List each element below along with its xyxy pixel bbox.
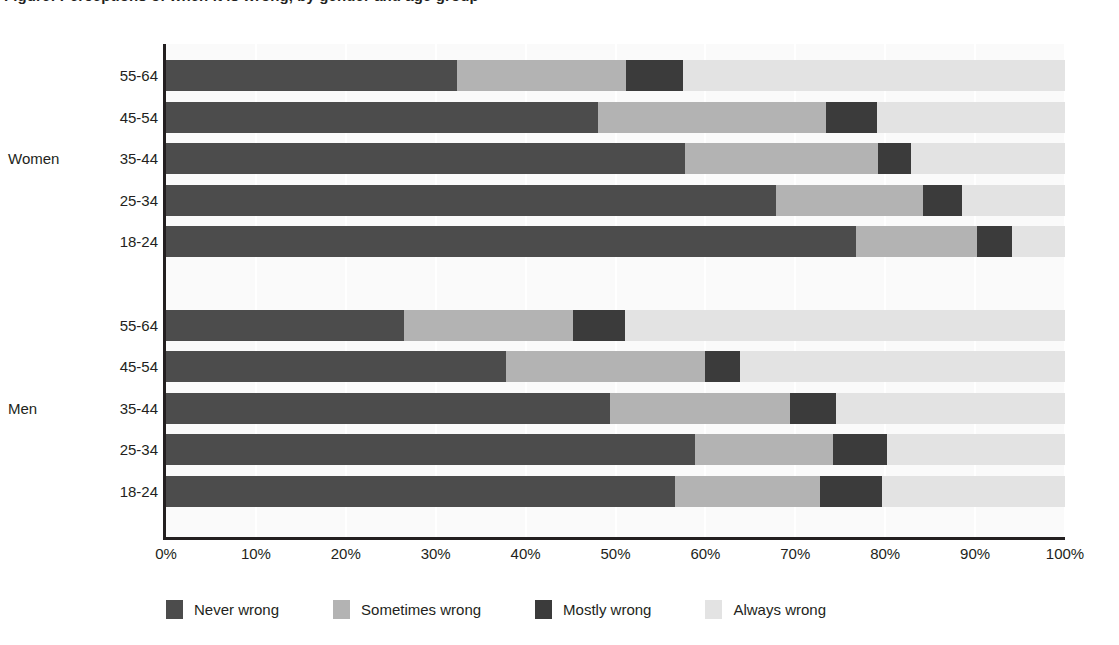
- y-axis-tick-label: 25-34: [88, 434, 158, 465]
- bar-segment-mostly: [790, 393, 836, 424]
- x-axis-tick-label: 0%: [155, 545, 177, 562]
- bar-segment-mostly: [923, 185, 962, 216]
- bar-segment-mostly: [573, 310, 625, 341]
- bar-segment-always: [836, 393, 1065, 424]
- bar-segment-always: [911, 143, 1065, 174]
- bar-segment-always: [740, 351, 1065, 382]
- legend-label: Never wrong: [194, 601, 279, 618]
- bar-row: [166, 185, 1065, 216]
- y-axis-line: [163, 44, 166, 540]
- bar-segment-always: [683, 60, 1065, 91]
- y-axis-tick-container: 55-6445-5435-4425-3418-2455-6445-5435-44…: [78, 44, 158, 537]
- bar-segment-mostly: [977, 226, 1012, 257]
- bar-segment-never: [166, 102, 598, 133]
- bar-segment-mostly: [705, 351, 740, 382]
- bar-segment-sometimes: [685, 143, 878, 174]
- bar-segment-sometimes: [610, 393, 790, 424]
- y-axis-tick-label: 18-24: [88, 226, 158, 257]
- x-axis-tick-label: 30%: [421, 545, 451, 562]
- bar-segment-mostly: [833, 434, 887, 465]
- bar-segment-mostly: [826, 102, 877, 133]
- x-axis-tick-label: 80%: [870, 545, 900, 562]
- bar-segment-never: [166, 185, 776, 216]
- legend-swatch-always: [705, 600, 722, 619]
- legend-swatch-sometimes: [333, 600, 350, 619]
- chart-title: Figure: Perceptions of when it is wrong,…: [4, 0, 479, 4]
- bar-segment-sometimes: [457, 60, 626, 91]
- y-axis-tick-label: 45-54: [88, 351, 158, 382]
- bar-segment-never: [166, 476, 675, 507]
- bar-row: [166, 60, 1065, 91]
- group-label-women: Women: [8, 143, 78, 174]
- bar-segment-sometimes: [675, 476, 820, 507]
- y-axis-tick-label: 35-44: [88, 143, 158, 174]
- chart-figure: Figure: Perceptions of when it is wrong,…: [0, 0, 1119, 645]
- bar-segment-never: [166, 143, 685, 174]
- legend-label: Mostly wrong: [563, 601, 651, 618]
- bar-segment-mostly: [878, 143, 911, 174]
- y-axis-tick-label: 55-64: [88, 60, 158, 91]
- bar-row: [166, 434, 1065, 465]
- bar-segment-always: [877, 102, 1065, 133]
- group-label-container: WomenMen: [8, 44, 80, 537]
- plot-area: [166, 44, 1065, 537]
- bar-segment-always: [882, 476, 1065, 507]
- x-axis-tick-label: 40%: [511, 545, 541, 562]
- y-axis-tick-label: 35-44: [88, 393, 158, 424]
- x-axis-tick-container: 0%10%20%30%40%50%60%70%80%90%100%: [166, 545, 1065, 569]
- bar-row: [166, 226, 1065, 257]
- legend-item[interactable]: Always wrong: [705, 600, 826, 619]
- bar-segment-sometimes: [598, 102, 826, 133]
- bar-row: [166, 143, 1065, 174]
- bar-segment-mostly: [626, 60, 683, 91]
- bar-segment-always: [625, 310, 1065, 341]
- bar-segment-always: [1012, 226, 1065, 257]
- bar-row: [166, 310, 1065, 341]
- bar-segment-mostly: [820, 476, 882, 507]
- legend-item[interactable]: Mostly wrong: [535, 600, 651, 619]
- x-axis-tick-label: 10%: [241, 545, 271, 562]
- legend-swatch-mostly: [535, 600, 552, 619]
- bar-segment-always: [887, 434, 1065, 465]
- bar-segment-sometimes: [776, 185, 923, 216]
- bar-segment-never: [166, 393, 610, 424]
- x-axis-tick-label: 100%: [1046, 545, 1084, 562]
- bar-segment-never: [166, 310, 404, 341]
- y-axis-tick-label: 55-64: [88, 310, 158, 341]
- bar-segment-never: [166, 434, 695, 465]
- bar-segment-sometimes: [506, 351, 706, 382]
- bar-segment-sometimes: [856, 226, 976, 257]
- bar-segment-sometimes: [695, 434, 833, 465]
- bar-segment-never: [166, 351, 506, 382]
- x-axis-tick-label: 70%: [780, 545, 810, 562]
- bar-row: [166, 393, 1065, 424]
- chart-legend: Never wrongSometimes wrongMostly wrongAl…: [166, 596, 880, 622]
- y-axis-tick-label: 25-34: [88, 185, 158, 216]
- group-label-men: Men: [8, 393, 78, 424]
- bar-segment-sometimes: [404, 310, 573, 341]
- y-axis-tick-label: 45-54: [88, 102, 158, 133]
- legend-item[interactable]: Never wrong: [166, 600, 279, 619]
- x-axis-line: [163, 537, 1065, 540]
- bar-segment-never: [166, 60, 457, 91]
- x-axis-tick-label: 50%: [600, 545, 630, 562]
- bar-row: [166, 102, 1065, 133]
- legend-label: Sometimes wrong: [361, 601, 481, 618]
- y-axis-tick-label: 18-24: [88, 476, 158, 507]
- bar-segment-always: [962, 185, 1065, 216]
- x-axis-tick-label: 90%: [960, 545, 990, 562]
- bar-segment-never: [166, 226, 856, 257]
- legend-label: Always wrong: [733, 601, 826, 618]
- bar-row: [166, 476, 1065, 507]
- legend-item[interactable]: Sometimes wrong: [333, 600, 481, 619]
- legend-swatch-never: [166, 600, 183, 619]
- bar-row: [166, 351, 1065, 382]
- x-axis-tick-label: 20%: [331, 545, 361, 562]
- x-axis-tick-label: 60%: [690, 545, 720, 562]
